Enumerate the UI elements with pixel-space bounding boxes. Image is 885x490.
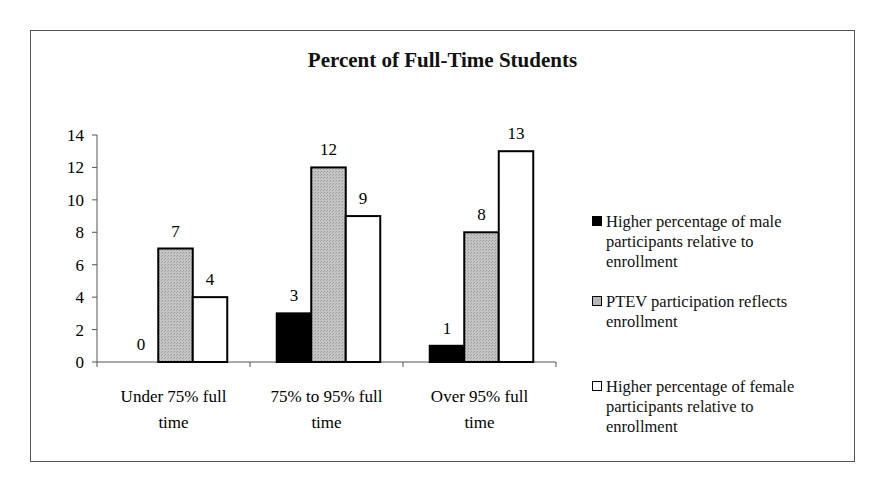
bar: [499, 151, 534, 362]
legend-swatch-icon: [592, 381, 602, 391]
x-category-label: time: [311, 413, 341, 432]
legend-label: enrollment: [606, 312, 677, 331]
bars: [158, 151, 533, 362]
data-label: 4: [206, 270, 215, 289]
data-label: 9: [359, 189, 368, 208]
bar: [277, 313, 312, 362]
y-tick-label: 6: [76, 256, 85, 275]
data-label: 0: [137, 335, 146, 354]
y-tick-label: 2: [76, 321, 85, 340]
x-category-label: time: [464, 413, 494, 432]
data-label: 3: [290, 286, 299, 305]
bar: [158, 249, 193, 363]
legend-label: Higher percentage of female: [606, 377, 794, 396]
bar: [464, 232, 499, 362]
x-category-label: time: [158, 413, 188, 432]
x-category-label: Over 95% full: [431, 387, 529, 406]
legend-item: Higher percentage of femaleparticipants …: [592, 377, 852, 437]
bar: [311, 167, 346, 362]
y-tick-label: 4: [76, 288, 85, 307]
bar: [193, 297, 228, 362]
y-tick-label: 12: [67, 158, 84, 177]
data-label: 1: [443, 319, 452, 338]
data-label: 13: [508, 124, 525, 143]
y-tick-label: 10: [67, 191, 84, 210]
legend-label: participants relative to: [606, 232, 754, 251]
bar: [430, 346, 465, 362]
legend-item: PTEV participation reflectsenrollment: [592, 292, 852, 332]
legend-label: PTEV participation reflects: [606, 292, 787, 311]
legend-label: participants relative to: [606, 397, 754, 416]
data-label: 8: [477, 205, 486, 224]
legend-label: Higher percentage of male: [606, 212, 781, 231]
data-label: 12: [320, 140, 337, 159]
bar: [346, 216, 381, 362]
x-category-label: 75% to 95% full: [271, 387, 383, 406]
data-label: 7: [171, 222, 180, 241]
legend-label: enrollment: [606, 417, 677, 436]
legend-swatch-icon: [592, 296, 602, 306]
y-tick-label: 0: [76, 353, 85, 372]
legend-label: enrollment: [606, 252, 677, 271]
legend-item: Higher percentage of maleparticipants re…: [592, 212, 852, 272]
x-category-label: Under 75% full: [121, 387, 227, 406]
legend-swatch-icon: [592, 216, 602, 226]
y-tick-label: 8: [76, 223, 85, 242]
y-tick-label: 14: [67, 126, 85, 145]
